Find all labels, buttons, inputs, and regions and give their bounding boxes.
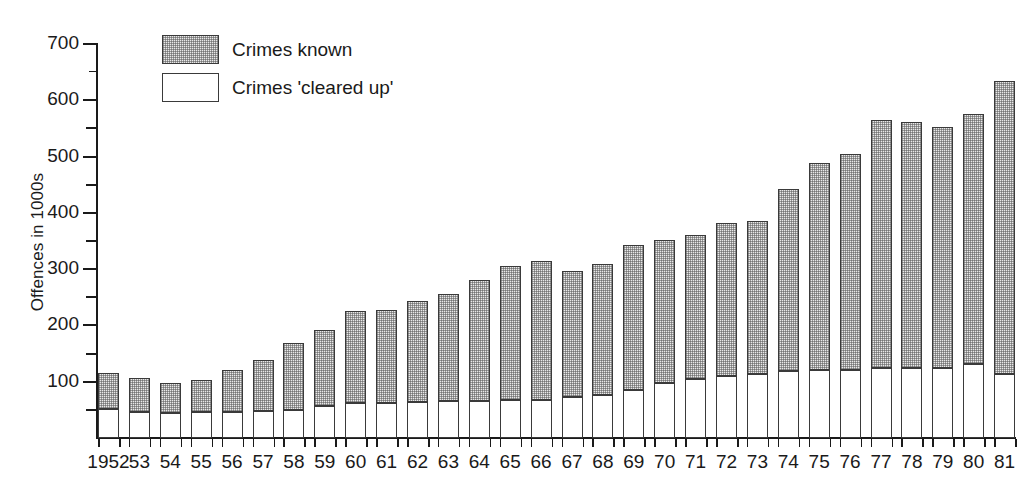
bar-segment-known-63 (438, 294, 459, 401)
x-tick-66-left (531, 439, 533, 447)
bar-72 (716, 223, 737, 438)
bar-segment-cleared-72 (716, 376, 737, 438)
bar-segment-known-79 (932, 127, 953, 368)
bar-69 (623, 245, 644, 438)
bar-segment-cleared-71 (685, 379, 706, 438)
y-tick-label-500: 500 (19, 146, 79, 165)
x-tick-label-69: 69 (617, 452, 651, 472)
bar-segment-known-75 (809, 163, 830, 371)
x-tick-label-58: 58 (277, 452, 311, 472)
x-tick-55-right (212, 439, 214, 447)
bar-segment-cleared-65 (500, 400, 521, 438)
x-tick-61-left (376, 439, 378, 447)
bar-segment-cleared-68 (592, 395, 613, 438)
x-tick-63-left (438, 439, 440, 447)
x-tick-81-right (1015, 439, 1017, 447)
y-tick-minor-550 (86, 127, 96, 129)
x-tick-label-77: 77 (864, 452, 898, 472)
x-tick-80-right (984, 439, 986, 447)
bar-segment-cleared-59 (314, 406, 335, 438)
bar-73 (747, 221, 768, 438)
bar-segment-known-61 (376, 310, 397, 403)
bar-segment-cleared-75 (809, 370, 830, 438)
x-tick-label-70: 70 (648, 452, 682, 472)
bar-segment-known-55 (191, 380, 212, 412)
y-tick-400 (83, 212, 96, 214)
bar-segment-cleared-58 (283, 410, 304, 438)
x-tick-80-left (963, 439, 965, 447)
x-tick-label-76: 76 (833, 452, 867, 472)
bar-segment-known-68 (592, 264, 613, 395)
x-tick-60-left (345, 439, 347, 447)
bar-segment-known-70 (654, 240, 675, 383)
bar-segment-cleared-76 (840, 370, 861, 438)
x-tick-60-right (366, 439, 368, 447)
x-tick-label-64: 64 (462, 452, 496, 472)
x-tick-label-73: 73 (740, 452, 774, 472)
x-tick-77-right (892, 439, 894, 447)
bar-segment-cleared-60 (345, 403, 366, 438)
bar-53 (129, 378, 150, 438)
y-tick-minor-350 (86, 240, 96, 242)
bar-segment-known-74 (778, 189, 799, 371)
bar-66 (531, 261, 552, 438)
x-tick-68-left (592, 439, 594, 447)
x-tick-label-56: 56 (215, 452, 249, 472)
legend-swatch-known-icon (162, 35, 219, 64)
x-tick-55-left (191, 439, 193, 447)
x-tick-label-65: 65 (493, 452, 527, 472)
bar-segment-cleared-66 (531, 400, 552, 438)
bar-67 (562, 271, 583, 438)
x-tick-65-left (500, 439, 502, 447)
legend-label-cleared: Crimes 'cleared up' (232, 78, 393, 97)
y-tick-minor-650 (89, 71, 96, 72)
bar-62 (407, 301, 428, 438)
bar-segment-cleared-64 (469, 401, 490, 438)
x-tick-73-right (768, 439, 770, 447)
x-tick-label-61: 61 (370, 452, 404, 472)
x-tick-67-left (562, 439, 564, 447)
y-tick-label-200: 200 (19, 314, 79, 333)
bar-segment-cleared-57 (253, 411, 274, 438)
x-tick-65-right (521, 439, 523, 447)
bar-segment-cleared-1952 (98, 409, 119, 438)
x-tick-label-75: 75 (802, 452, 836, 472)
bar-81 (994, 81, 1015, 438)
bar-segment-known-73 (747, 221, 768, 375)
x-tick-63-right (459, 439, 461, 447)
x-tick-70-right (675, 439, 677, 447)
x-tick-64-left (469, 439, 471, 447)
x-tick-label-78: 78 (895, 452, 929, 472)
x-tick-label-80: 80 (957, 452, 991, 472)
x-tick-label-53: 53 (122, 452, 156, 472)
y-tick-minor-50 (86, 409, 96, 411)
x-tick-74-right (799, 439, 801, 447)
bar-segment-known-1952 (98, 373, 119, 408)
y-tick-300 (83, 268, 96, 270)
x-tick-66-right (552, 439, 554, 447)
bar-segment-cleared-81 (994, 374, 1015, 438)
bar-segment-known-67 (562, 271, 583, 398)
bar-segment-known-60 (345, 311, 366, 403)
x-tick-73-left (747, 439, 749, 447)
bar-segment-cleared-53 (129, 412, 150, 438)
bar-segment-known-77 (871, 120, 892, 368)
legend-item-crimes-known: Crimes known (162, 33, 393, 66)
x-tick-label-71: 71 (679, 452, 713, 472)
bar-68 (592, 264, 613, 438)
x-tick-67-right (583, 439, 585, 447)
y-tick-label-600: 600 (19, 89, 79, 108)
x-tick-79-right (953, 439, 955, 447)
x-tick-76-right (861, 439, 863, 447)
y-tick-minor-150 (86, 353, 96, 355)
bar-segment-known-58 (283, 343, 304, 409)
bar-segment-cleared-78 (901, 368, 922, 438)
x-tick-label-81: 81 (988, 452, 1022, 472)
y-tick-label-400: 400 (19, 202, 79, 221)
bar-segment-known-71 (685, 235, 706, 379)
bar-segment-cleared-56 (222, 412, 243, 438)
x-tick-70-left (654, 439, 656, 447)
x-tick-label-57: 57 (246, 452, 280, 472)
x-tick-62-left (407, 439, 409, 447)
x-tick-59-left (314, 439, 316, 447)
